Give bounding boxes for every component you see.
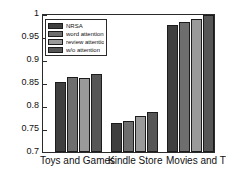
legend: NRSA word attention review attention w/o… — [45, 19, 107, 56]
plot-area: NRSA word attention review attention w/o… — [42, 14, 215, 153]
legend-item-nrsa: NRSA — [48, 22, 104, 29]
bar-toys-and-games-nrsa — [55, 82, 66, 152]
legend-item-word-attention: word attention — [48, 30, 104, 37]
y-tick-label-075: 0.75 — [21, 124, 39, 133]
y-tick-mark-09 — [43, 61, 47, 62]
bar-kindle-store-wo-attention — [147, 112, 158, 152]
bar-movies-and-tv-wo-attention — [203, 15, 214, 152]
y-tick-label-07: 0.7 — [26, 147, 39, 156]
y-tick-mark-08 — [43, 107, 47, 108]
y-tick-mark-075 — [43, 130, 47, 131]
legend-swatch-wo-attention — [48, 47, 63, 53]
legend-item-wo-attention: w/o attention — [48, 46, 104, 53]
x-tick-label-movies-and-tv: Movies and TV — [166, 155, 226, 166]
bar-toys-and-games-review-attention — [79, 78, 90, 152]
legend-label-wo-attention: w/o attention — [66, 47, 100, 53]
bar-toys-and-games-wo-attention — [91, 74, 102, 152]
legend-item-review-attention: review attention — [48, 38, 104, 45]
bar-toys-and-games-word-attention — [67, 77, 78, 152]
y-tick-mark-085 — [43, 84, 47, 85]
rmse-bar-chart-figure: RMSE 1 0.95 0.9 0.85 0.8 0.75 0.7 — [0, 0, 226, 178]
bar-kindle-store-word-attention — [123, 121, 134, 152]
legend-swatch-word-attention — [48, 31, 63, 37]
y-tick-label-08: 0.8 — [26, 101, 39, 110]
x-tick-label-toys-and-games: Toys and Games — [40, 155, 115, 166]
y-tick-label-1: 1 — [34, 9, 39, 18]
legend-swatch-review-attention — [48, 39, 63, 45]
y-tick-mark-1 — [43, 15, 47, 16]
bar-movies-and-tv-word-attention — [179, 22, 190, 152]
legend-label-nrsa: NRSA — [66, 23, 83, 29]
legend-label-review-attention: review attention — [66, 39, 104, 45]
bar-movies-and-tv-nrsa — [167, 25, 178, 152]
bar-kindle-store-review-attention — [135, 116, 146, 152]
y-tick-label-085: 0.85 — [21, 78, 39, 87]
y-tick-label-095: 0.95 — [21, 32, 39, 41]
legend-swatch-nrsa — [48, 23, 63, 29]
bar-kindle-store-nrsa — [111, 123, 122, 152]
y-tick-label-09: 0.9 — [26, 55, 39, 64]
legend-label-word-attention: word attention — [66, 31, 104, 37]
x-tick-label-kindle-store: Kindle Store — [108, 155, 162, 166]
bar-movies-and-tv-review-attention — [191, 19, 202, 152]
